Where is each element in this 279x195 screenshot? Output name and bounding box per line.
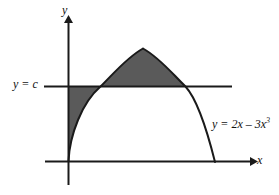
horizontal-line-label: y = c [13, 78, 38, 90]
x-axis-label: x [257, 154, 262, 166]
shaded-region-upper [101, 49, 186, 87]
curve-equation-label: y = 2x – 3x3 [212, 117, 270, 130]
y-axis-label: y [62, 4, 67, 16]
shaded-region-left [69, 87, 101, 162]
curve-equation-exponent: 3 [266, 116, 270, 125]
x-axis [45, 157, 258, 166]
curve-equation-main: y = 2x – 3x [212, 117, 266, 131]
graph-figure [0, 0, 279, 195]
